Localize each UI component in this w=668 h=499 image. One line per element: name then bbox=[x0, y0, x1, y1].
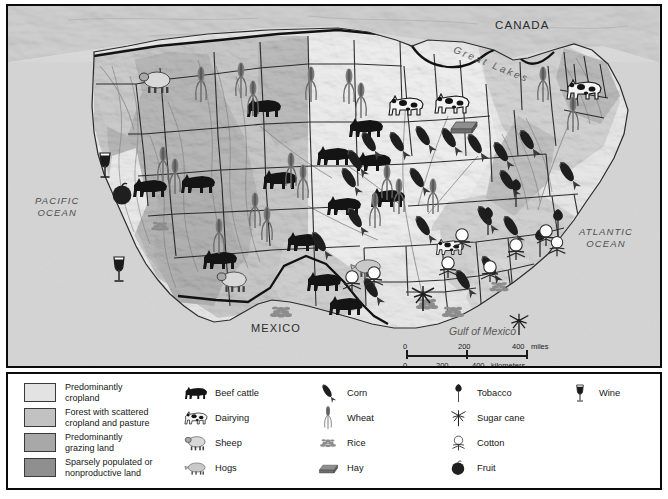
legend-item-hogs: Hogs bbox=[182, 455, 302, 480]
legend-column-crops: Tobacco Sugar cane Cotton bbox=[444, 380, 574, 480]
legend-label-sparse: Sparsely populated or nonproductive land bbox=[65, 457, 153, 478]
map-page: CANADA Great Lakes MEXICO Gulf of Mexico… bbox=[0, 0, 668, 499]
legend-label-tobacco: Tobacco bbox=[477, 388, 512, 398]
sugar-cane-icon bbox=[444, 407, 472, 429]
map-legend: Predominantly cropland Forest with scatt… bbox=[6, 372, 662, 490]
legend-item-rice: Rice bbox=[314, 430, 424, 455]
dairying-icon bbox=[182, 407, 210, 429]
legend-label-sugar-cane: Sugar cane bbox=[477, 413, 525, 423]
swatch-forest bbox=[24, 408, 56, 427]
legend-item-sheep: Sheep bbox=[182, 430, 302, 455]
beef-cattle-icon bbox=[182, 382, 210, 404]
legend-label-rice: Rice bbox=[347, 438, 366, 448]
scale-miles-400: 400 bbox=[512, 342, 525, 351]
legend-item-cotton: Cotton bbox=[444, 430, 574, 455]
hay-icon bbox=[314, 457, 342, 479]
cotton-icon bbox=[444, 432, 472, 454]
scale-miles-unit: miles bbox=[531, 342, 549, 351]
legend-item-wheat: Wheat bbox=[314, 405, 424, 430]
legend-label-cotton: Cotton bbox=[477, 438, 504, 448]
legend-label-hogs: Hogs bbox=[215, 463, 237, 473]
wine-icon bbox=[566, 382, 594, 404]
hogs-icon bbox=[182, 457, 210, 479]
tobacco-icon bbox=[444, 382, 472, 404]
fruit-icon bbox=[444, 457, 472, 479]
sheep-icon bbox=[182, 432, 210, 454]
scale-tick-0 bbox=[406, 350, 408, 359]
legend-item-beef-cattle: Beef cattle bbox=[182, 380, 302, 405]
scale-km-unit: kilometers bbox=[491, 361, 525, 368]
corn-icon bbox=[314, 382, 342, 404]
legend-column-land-use: Predominantly cropland Forest with scatt… bbox=[24, 380, 174, 480]
swatch-grazing bbox=[24, 433, 56, 452]
scale-km-200: 200 bbox=[436, 361, 449, 368]
legend-label-grazing: Predominantly grazing land bbox=[65, 432, 123, 453]
rice-icon bbox=[314, 432, 342, 454]
legend-label-sheep: Sheep bbox=[215, 438, 242, 448]
us-agriculture-map bbox=[8, 6, 659, 365]
legend-item-sparse: Sparsely populated or nonproductive land bbox=[24, 455, 174, 480]
swatch-sparse bbox=[24, 458, 56, 477]
legend-item-tobacco: Tobacco bbox=[444, 380, 574, 405]
legend-item-forest: Forest with scattered cropland and pastu… bbox=[24, 405, 174, 430]
legend-label-wheat: Wheat bbox=[347, 413, 374, 423]
legend-label-dairying: Dairying bbox=[215, 413, 249, 423]
legend-column-grains: Corn Wheat Rice bbox=[314, 380, 424, 480]
legend-label-hay: Hay bbox=[347, 463, 364, 473]
legend-item-hay: Hay bbox=[314, 455, 424, 480]
legend-column-beverages: Wine bbox=[566, 380, 656, 405]
legend-item-sugar-cane: Sugar cane bbox=[444, 405, 574, 430]
scale-tick-400 bbox=[526, 350, 528, 359]
swatch-cropland bbox=[24, 383, 56, 402]
legend-label-forest: Forest with scattered cropland and pastu… bbox=[65, 407, 150, 428]
legend-label-beef-cattle: Beef cattle bbox=[215, 388, 259, 398]
legend-label-fruit: Fruit bbox=[477, 463, 496, 473]
scale-km-0: 0 bbox=[403, 361, 407, 368]
scale-km-400: 400 bbox=[472, 361, 485, 368]
legend-label-corn: Corn bbox=[347, 388, 367, 398]
legend-item-cropland: Predominantly cropland bbox=[24, 380, 174, 405]
legend-item-corn: Corn bbox=[314, 380, 424, 405]
legend-item-grazing: Predominantly grazing land bbox=[24, 430, 174, 455]
scale-tick-200 bbox=[466, 350, 468, 359]
legend-item-fruit: Fruit bbox=[444, 455, 574, 480]
wheat-icon bbox=[314, 407, 342, 429]
scale-miles-0: 0 bbox=[403, 342, 407, 351]
legend-label-cropland: Predominantly cropland bbox=[65, 382, 123, 403]
scale-bar: 0 200 400 miles 0 200 400 kilometers bbox=[400, 342, 558, 368]
legend-item-dairying: Dairying bbox=[182, 405, 302, 430]
legend-label-wine: Wine bbox=[599, 388, 620, 398]
map-panel: CANADA Great Lakes MEXICO Gulf of Mexico… bbox=[6, 4, 662, 368]
legend-column-livestock: Beef cattle Dairying Sheep bbox=[182, 380, 302, 480]
scale-miles-200: 200 bbox=[458, 342, 471, 351]
legend-item-wine: Wine bbox=[566, 380, 656, 405]
